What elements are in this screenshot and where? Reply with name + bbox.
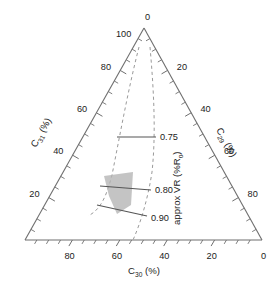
tick-right-45 [193,123,197,125]
tick-left-40 [73,155,79,159]
tick-bottom-65 [177,240,179,244]
tick-label-left-60: 60 [77,104,87,114]
tick-bottom-60 [164,240,168,246]
tick-bottom-20 [69,240,73,246]
tick-bottom-70 [189,240,191,244]
tick-right-95 [252,229,256,231]
tick-bottom-25 [82,240,84,244]
tick-left-50 [85,134,89,136]
triangle-outline [25,28,262,240]
tick-label-right-80: 80 [248,189,258,199]
tick-right-65 [217,166,221,168]
tick-left-45 [79,145,83,147]
tick-right-80 [232,198,238,202]
maturity-axis-title-base: approx VR (%R [171,158,182,225]
tick-bottom-95 [248,240,250,244]
tick-bottom-10 [46,240,48,244]
tick-label-left-80: 80 [101,62,111,72]
maturity-axis-title: approx VR (%Ro) [171,151,184,225]
tick-left-70 [108,92,112,94]
ternary-diagram-figure: 2040608020406080806040200 0.75 0.80 0.90… [0,0,280,285]
ternary-plot: 2040608020406080806040200 0.75 0.80 0.90… [0,0,280,285]
tick-left-75 [114,81,118,83]
svg-text:C31 (%): C31 (%) [28,116,54,150]
tick-left-15 [43,208,47,210]
tick-bottom-90 [236,240,238,244]
apex-label-right: 0 [145,12,150,22]
tick-right-10 [152,49,156,51]
tick-right-20 [162,70,168,74]
tick-right-75 [229,187,233,189]
bottom-axis-title-base: C [128,265,135,276]
tick-right-90 [246,219,250,221]
axis-tick-labels: 2040608020406080806040200 [29,62,266,262]
tick-bottom-5 [35,240,37,244]
tick-label-bottom-40: 60 [112,251,122,261]
bottom-axis-title: C30 (%) [128,265,160,278]
tick-left-65 [102,102,106,104]
tick-label-bottom-60: 40 [159,251,169,261]
tick-label-left-20: 20 [29,189,39,199]
tick-left-5 [31,229,35,231]
maturity-axis-title-tail: ) [171,151,182,154]
tick-left-35 [67,166,71,168]
tick-right-5 [146,39,150,41]
tick-left-80 [120,70,126,74]
tick-left-20 [49,198,55,202]
tick-bottom-50 [141,240,143,244]
tick-right-50 [199,134,203,136]
tick-left-30 [61,176,65,178]
tick-right-25 [170,81,174,83]
tick-right-55 [205,145,209,147]
tick-right-35 [181,102,185,104]
tick-bottom-80 [211,240,215,246]
tick-left-55 [90,123,94,125]
tick-bottom-55 [153,240,155,244]
apex-label-left: 100 [116,29,131,39]
envelope-right-curve [133,47,154,240]
tick-bottom-75 [201,240,203,244]
tick-left-10 [37,219,41,221]
tick-label-right-40: 40 [200,104,210,114]
tick-left-60 [96,113,102,117]
tick-label-bottom-20: 80 [64,251,74,261]
tick-left-90 [132,49,136,51]
tick-label-bottom-0: 0 [261,251,266,261]
tick-right-30 [176,92,180,94]
iso-label-075: 0.75 [160,132,178,142]
tick-bottom-85 [224,240,226,244]
tick-bottom-45 [129,240,131,244]
svg-text:approx VR (%Ro): approx VR (%Ro) [171,151,184,225]
tick-left-85 [126,60,130,62]
bottom-axis-title-unit: (%) [142,265,160,276]
tick-right-70 [223,176,227,178]
tick-label-left-40: 40 [53,146,63,156]
tick-right-40 [185,113,191,117]
left-axis-title: C31 (%) [28,116,54,150]
tick-bottom-40 [116,240,120,246]
tick-bottom-30 [94,240,96,244]
tick-bottom-15 [58,240,60,244]
iso-label-090: 0.90 [151,213,169,223]
tick-label-right-20: 20 [177,62,187,72]
tick-left-95 [138,39,142,41]
tick-right-60 [209,155,215,159]
tick-label-bottom-80: 20 [207,251,217,261]
tick-right-85 [240,208,244,210]
tick-right-15 [158,60,162,62]
tick-bottom-35 [106,240,108,244]
left-axis-title-unit: (%) [35,116,53,137]
tick-left-25 [55,187,59,189]
